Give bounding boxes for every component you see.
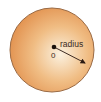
center-point: [52, 45, 57, 50]
circle-radius-diagram: 0 radius: [0, 0, 101, 102]
circle-shape: [10, 8, 94, 92]
radius-label: radius: [60, 39, 83, 49]
center-label: 0: [51, 51, 56, 60]
